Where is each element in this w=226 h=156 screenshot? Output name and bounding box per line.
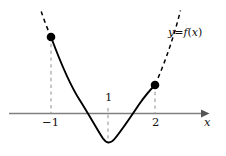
curve-equation-label: y=f(x) [168,27,202,38]
x-axis-label: x [204,117,211,129]
curve-solid-segment [51,37,155,142]
point-marker-x-two [151,81,160,90]
graph-canvas [0,0,226,156]
point-marker-x-neg-one [47,33,56,42]
x-tick-label-neg-one: −1 [42,117,59,129]
x-tick-label-one: 1 [105,92,112,104]
curve-dashed-extension-right [155,11,181,86]
function-graph-figure: −1 1 2 x y=f(x) [0,0,226,156]
x-tick-label-two: 2 [152,117,159,129]
curve-label-close-paren: ) [198,26,202,39]
